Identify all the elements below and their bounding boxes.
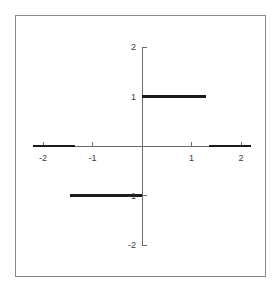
x-tick-label-2: 2 — [238, 154, 243, 163]
y-tick-label-2: 2 — [120, 43, 136, 52]
x-tick-label--1: -1 — [88, 154, 96, 163]
x-tick-label-1: 1 — [189, 154, 194, 163]
chart-page: -2-11221-1-2 — [0, 0, 280, 293]
x-tick-label--2: -2 — [39, 154, 47, 163]
y-tick-label--1: -1 — [120, 191, 136, 200]
y-tick-label--2: -2 — [120, 241, 136, 250]
plot-frame — [15, 15, 266, 277]
y-tick-label-1: 1 — [120, 92, 136, 101]
